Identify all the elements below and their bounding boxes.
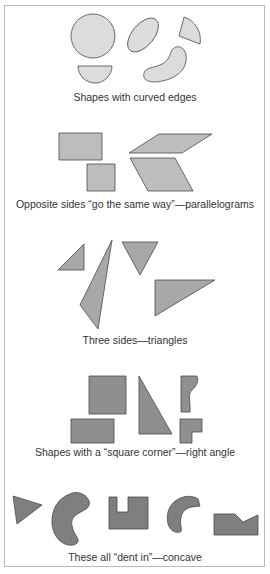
flat-parallelogram-shape bbox=[129, 134, 212, 153]
shapes-canvas bbox=[0, 0, 270, 574]
triangle-shapes bbox=[58, 240, 215, 329]
kidney-shape bbox=[52, 493, 90, 546]
rectangle-shape bbox=[59, 133, 102, 160]
right-triangle-corner-shape bbox=[139, 376, 172, 434]
l-shape bbox=[180, 419, 202, 443]
caption-concave: These all “dent in”—concave bbox=[0, 551, 270, 563]
caption-curved: Shapes with curved edges bbox=[0, 91, 270, 103]
inverted-triangle-shape bbox=[122, 242, 158, 275]
tall-parallelogram-shape bbox=[130, 158, 193, 191]
dented-rectangle-shape bbox=[214, 514, 258, 535]
small-triangle-shape bbox=[58, 244, 84, 270]
concave-shapes bbox=[13, 493, 258, 546]
semicircle-shape bbox=[78, 66, 112, 83]
caption-parallelograms: Opposite sides “go the same way”—paralle… bbox=[0, 198, 270, 210]
square-shape bbox=[87, 164, 115, 191]
rectangle-corner-shape bbox=[71, 419, 114, 443]
caption-triangles: Three sides—triangles bbox=[0, 334, 270, 346]
right-triangle-shape bbox=[155, 280, 215, 316]
caption-right-angle: Shapes with a “square corner”—right angl… bbox=[0, 446, 270, 458]
arrowhead-shape bbox=[13, 496, 42, 524]
ellipse-shape bbox=[122, 13, 165, 58]
bean-shape bbox=[144, 47, 187, 82]
circle-shape bbox=[71, 14, 115, 58]
notched-rectangle-shape bbox=[109, 497, 148, 529]
right-angle-shapes bbox=[71, 376, 202, 443]
curvy-corner-shape bbox=[181, 376, 198, 412]
parallelogram-shapes bbox=[59, 133, 212, 191]
hook-shape bbox=[167, 496, 200, 532]
sector-shape bbox=[179, 17, 200, 44]
curved-shapes bbox=[71, 13, 200, 83]
long-triangle-shape bbox=[80, 240, 112, 329]
square-corner-shape bbox=[89, 376, 126, 414]
